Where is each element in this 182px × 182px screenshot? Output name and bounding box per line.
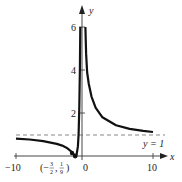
x-axis: −10 0 10 x <box>5 151 175 173</box>
x-tick-neg10: −10 <box>5 162 21 173</box>
svg-text:,: , <box>55 162 58 173</box>
svg-text:3: 3 <box>50 161 53 167</box>
y-axis-label: y <box>88 5 94 16</box>
y-axis: 6 4 2 y <box>71 5 94 160</box>
function-graph: −10 0 10 x 6 4 2 y y = 1 (− 3 2 , 1 9 ) <box>0 0 182 182</box>
inflection-point-label: (− 3 2 , 1 9 ) <box>40 161 69 175</box>
svg-text:(−: (− <box>40 162 49 174</box>
asymptote-label: y = 1 <box>142 138 164 149</box>
x-axis-label: x <box>169 151 175 162</box>
x-tick-0: 0 <box>83 162 88 173</box>
svg-text:9: 9 <box>60 169 63 175</box>
x-axis-arrow-icon <box>160 153 168 159</box>
y-axis-arrow-icon <box>79 5 85 14</box>
curve-left-branch <box>16 27 80 156</box>
curve-right-branch <box>85 27 153 132</box>
svg-text:): ) <box>66 162 69 174</box>
svg-text:2: 2 <box>50 169 53 175</box>
zero-point-marker <box>73 154 78 159</box>
svg-text:1: 1 <box>60 161 63 167</box>
x-tick-10: 10 <box>147 162 157 173</box>
y-tick-6: 6 <box>71 22 76 33</box>
y-tick-4: 4 <box>71 65 76 76</box>
y-tick-2: 2 <box>71 108 76 119</box>
